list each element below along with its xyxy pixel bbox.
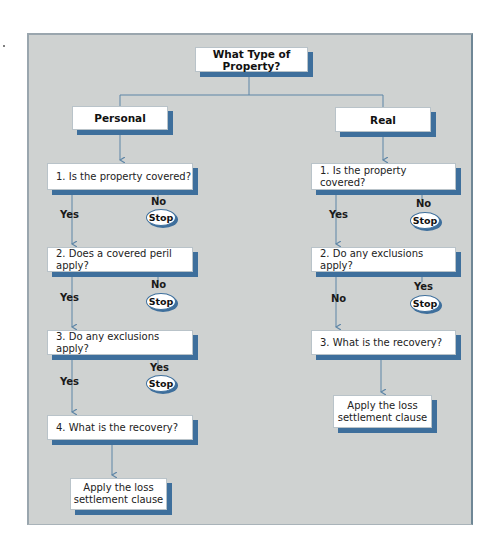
stop-label: Stop [149, 296, 174, 307]
personal-step-1-yes-label: Yes [60, 209, 79, 220]
real-result-line-2: settlement clause [338, 412, 428, 424]
real-result-line-1: Apply the loss [347, 400, 417, 412]
real-step-2-box: 2. Do any exclusions apply? [311, 247, 456, 272]
personal-step-2-stop: Stop [146, 293, 176, 310]
stop-label: Stop [413, 298, 438, 309]
stop-label: Stop [413, 215, 438, 226]
personal-result-line-1: Apply the loss [83, 482, 153, 494]
real-step-1-stop: Stop [410, 212, 440, 229]
real-step-2-no-label: No [331, 293, 346, 304]
root-question-box: What Type of Property? [195, 47, 308, 72]
personal-step-2-no-label: No [151, 279, 166, 290]
personal-result-line-2: settlement clause [74, 494, 164, 506]
personal-step-4-box: 4. What is the recovery? [47, 415, 193, 440]
real-step-3-box: 3. What is the recovery? [311, 330, 456, 355]
personal-step-3-yes-label: Yes [60, 376, 79, 387]
branch-personal-label: Personal [94, 112, 146, 124]
connector-lines [0, 0, 499, 555]
personal-step-1-stop: Stop [146, 209, 176, 226]
personal-step-3-stop: Stop [146, 375, 176, 392]
personal-result-box: Apply the loss settlement clause [70, 478, 167, 510]
stop-label: Stop [149, 212, 174, 223]
personal-step-2-yes-label: Yes [60, 292, 79, 303]
branch-real-label: Real [370, 114, 396, 126]
personal-step-3-stop-condition-label: Yes [150, 362, 169, 373]
real-result-box: Apply the loss settlement clause [333, 395, 432, 428]
root-question-label: What Type of Property? [196, 48, 307, 72]
personal-step-1-no-label: No [151, 196, 166, 207]
personal-step-4-text: 4. What is the recovery? [56, 422, 178, 434]
real-step-1-yes-label: Yes [329, 209, 348, 220]
personal-step-3-box: 3. Do any exclusions apply? [47, 330, 193, 355]
real-step-1-box: 1. Is the property covered? [311, 163, 456, 190]
real-step-2-stop: Stop [410, 295, 440, 312]
branch-real-box: Real [335, 107, 431, 132]
branch-personal-box: Personal [72, 106, 168, 130]
personal-step-1-text: 1. Is the property covered? [56, 171, 191, 183]
real-step-1-text: 1. Is the property covered? [320, 165, 455, 189]
real-step-3-text: 3. What is the recovery? [320, 337, 442, 349]
real-step-1-no-label: No [416, 198, 431, 209]
real-step-2-yes-label: Yes [414, 281, 433, 292]
stop-label: Stop [149, 378, 174, 389]
personal-step-3-text: 3. Do any exclusions apply? [56, 331, 192, 355]
real-step-2-text: 2. Do any exclusions apply? [320, 248, 455, 272]
personal-step-2-text: 2. Does a covered peril apply? [56, 248, 192, 272]
personal-step-2-box: 2. Does a covered peril apply? [47, 247, 193, 272]
personal-step-1-box: 1. Is the property covered? [47, 163, 193, 190]
